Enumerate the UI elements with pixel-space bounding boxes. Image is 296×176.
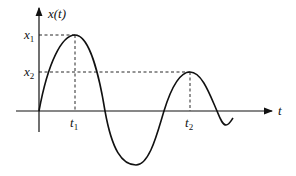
x1-label: x1 xyxy=(23,27,34,44)
x2-label: x2 xyxy=(23,64,34,81)
t2-label: t2 xyxy=(185,115,193,132)
t-axis-label: t xyxy=(278,103,282,118)
t1-label: t1 xyxy=(70,115,78,132)
signal-curve xyxy=(39,35,233,165)
y-axis-label: x(t) xyxy=(47,6,66,21)
signal-diagram: x(t) t x1 x2 t1 t2 xyxy=(0,0,296,176)
